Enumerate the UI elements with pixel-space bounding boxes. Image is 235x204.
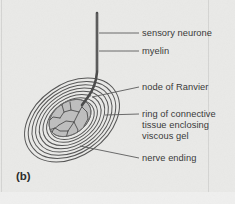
label-ring-of-connective-tissue: ring of connective tissue enclosing visc…: [142, 109, 216, 142]
label-myelin: myelin: [142, 46, 169, 57]
figure-pacinian-corpuscle: sensory neurone myelin node of Ranvier r…: [0, 0, 235, 204]
label-node-of-ranvier: node of Ranvier: [142, 82, 208, 93]
label-nerve-ending: nerve ending: [142, 153, 196, 164]
label-sensory-neurone: sensory neurone: [142, 28, 212, 39]
panel-identifier: (b): [16, 170, 31, 182]
